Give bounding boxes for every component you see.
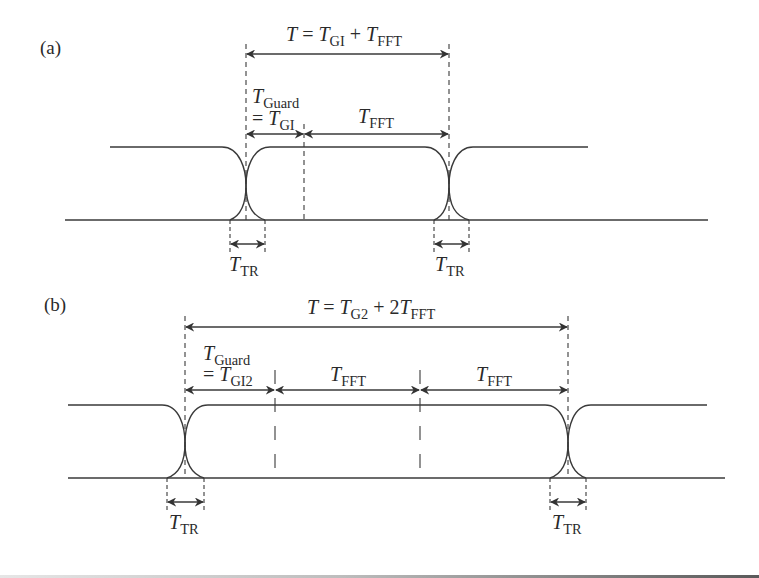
period-label-a: T = TGI + TFFT xyxy=(286,24,402,44)
guard-label-a-line2: = TGI xyxy=(252,108,295,128)
equals: = xyxy=(297,23,318,45)
symbol-t: T xyxy=(268,107,279,129)
period-label-b: T = TG2 + 2TFFT xyxy=(307,297,435,317)
symbol-t: T xyxy=(339,296,350,318)
panel-a xyxy=(65,44,708,252)
fft-label-a: TFFT xyxy=(358,106,394,126)
symbol-t: T xyxy=(252,85,263,107)
symbol-envelope-a xyxy=(230,147,469,220)
next-symbol-envelope-a xyxy=(434,147,588,220)
symbol-envelope-b xyxy=(167,405,586,478)
subscript: FFT xyxy=(369,115,394,131)
guard-label-b-line2: = TGI2 xyxy=(203,364,253,384)
symbol-t: T xyxy=(399,296,410,318)
subscript: GI xyxy=(279,117,294,133)
subscript: TR xyxy=(180,521,198,537)
equals: = xyxy=(252,107,268,129)
symbol-t: T xyxy=(330,363,341,385)
panel-tag-a: (a) xyxy=(40,38,61,57)
plus: + 2 xyxy=(368,296,399,318)
symbol-t: T xyxy=(366,23,377,45)
guard-label-b-line1: TGuard xyxy=(203,343,250,363)
prev-symbol-envelope-b xyxy=(68,405,204,478)
fft-label-b2: TFFT xyxy=(476,364,512,384)
subscript: TR xyxy=(563,521,581,537)
symbol-t: T xyxy=(286,23,297,45)
fft-label-b1: TFFT xyxy=(330,364,366,384)
subscript: GI2 xyxy=(230,373,252,389)
panel-b xyxy=(68,316,725,511)
subscript: TR xyxy=(240,263,258,279)
subscript: GI xyxy=(330,33,345,49)
equals: = xyxy=(318,296,339,318)
ofdm-symbol-timing-diagram xyxy=(0,0,759,578)
symbol-t: T xyxy=(476,363,487,385)
plus: + xyxy=(345,23,366,45)
symbol-t: T xyxy=(318,23,329,45)
subscript: FFT xyxy=(377,33,402,49)
symbol-t: T xyxy=(169,511,180,533)
subscript: G2 xyxy=(351,306,369,322)
symbol-t: T xyxy=(203,342,214,364)
symbol-t: T xyxy=(358,105,369,127)
tr-label-b2: TTR xyxy=(552,512,582,532)
subscript: FFT xyxy=(411,306,436,322)
symbol-t: T xyxy=(229,253,240,275)
equals: = xyxy=(203,363,219,385)
guard-label-a-line1: TGuard xyxy=(252,86,299,106)
tr-label-b1: TTR xyxy=(169,512,199,532)
symbol-t: T xyxy=(219,363,230,385)
subscript: TR xyxy=(446,263,464,279)
subscript: FFT xyxy=(341,373,366,389)
tr-label-a1: TTR xyxy=(229,254,259,274)
symbol-t: T xyxy=(307,296,318,318)
symbol-t: T xyxy=(552,511,563,533)
panel-tag-b: (b) xyxy=(44,295,66,314)
tr-label-a2: TTR xyxy=(435,254,465,274)
symbol-t: T xyxy=(435,253,446,275)
subscript: FFT xyxy=(487,373,512,389)
